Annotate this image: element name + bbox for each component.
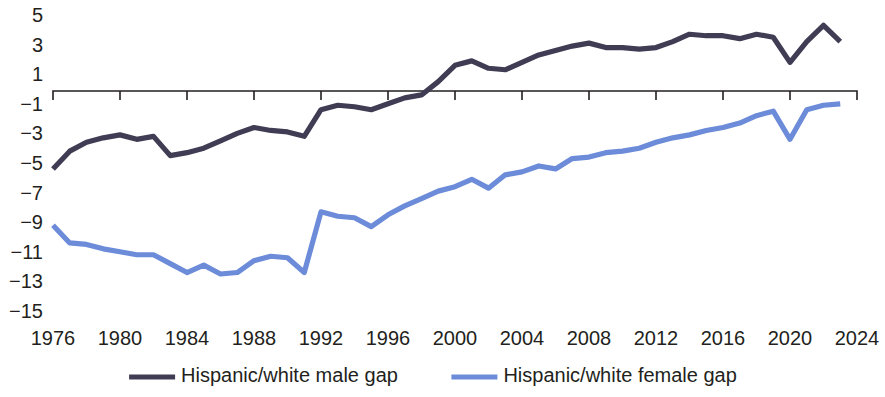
y-tick-label: −15 (9, 300, 43, 322)
data-series-group (53, 25, 840, 274)
x-tick-label: 2004 (500, 327, 545, 349)
y-tick-label: 5 (32, 4, 43, 26)
x-tick-label: 2024 (835, 327, 880, 349)
y-tick-label: −3 (20, 122, 43, 144)
x-tick-label: 1984 (165, 327, 210, 349)
y-tick-label: 3 (32, 34, 43, 56)
y-tick-label: −11 (11, 241, 43, 263)
y-tick-label: −7 (20, 182, 43, 204)
y-tick-label: −13 (9, 270, 43, 292)
y-tick-label: −5 (20, 152, 43, 174)
y-axis-tick-labels: 531−1−3−5−7−9−11−13−15 (9, 4, 43, 322)
x-tick-label: 1992 (299, 327, 344, 349)
x-tick-label: 1980 (98, 327, 143, 349)
x-tick-label: 2008 (567, 327, 612, 349)
x-tick-label: 1996 (366, 327, 411, 349)
line-chart: 531−1−3−5−7−9−11−13−15 19761980198419881… (0, 0, 885, 397)
x-tick-label: 2020 (768, 327, 813, 349)
chart-container: 531−1−3−5−7−9−11−13−15 19761980198419881… (0, 0, 885, 397)
series-line-female-gap (53, 104, 840, 274)
y-tick-label: 1 (32, 63, 43, 85)
x-axis-tick-labels: 1976198019841988199219962000200420082012… (31, 327, 880, 349)
x-tick-label: 2016 (701, 327, 746, 349)
x-axis (53, 91, 857, 100)
x-tick-label: 1988 (232, 327, 277, 349)
chart-legend: Hispanic/white male gapHispanic/white fe… (129, 364, 737, 386)
x-tick-label: 2012 (634, 327, 679, 349)
legend-label-0: Hispanic/white male gap (181, 364, 398, 386)
y-tick-label: −9 (20, 211, 43, 233)
legend-label-1: Hispanic/white female gap (503, 364, 736, 386)
x-tick-label: 2000 (433, 327, 478, 349)
x-tick-label: 1976 (31, 327, 76, 349)
y-tick-label: −1 (20, 93, 43, 115)
series-line-male-gap (53, 25, 840, 169)
